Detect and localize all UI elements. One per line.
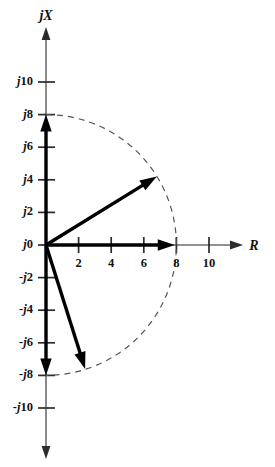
tick-label-10: 10 bbox=[203, 256, 216, 270]
tick-label-4: 4 bbox=[108, 256, 115, 270]
tick-label-8: 8 bbox=[173, 256, 179, 270]
phasor-pure-inductive-arrowhead-icon bbox=[40, 115, 51, 132]
tick-label-6: 6 bbox=[141, 256, 147, 270]
phasor-pure-capacitive-arrowhead-icon bbox=[40, 358, 51, 375]
tick-label-j6: j6 bbox=[21, 139, 33, 153]
phasor-capacitive-arrowhead-icon bbox=[75, 351, 86, 369]
tick-label-j2: j2 bbox=[21, 204, 33, 218]
tick-label-neg-j4: -j4 bbox=[19, 302, 34, 316]
phasor-diagram-figure: j10 j8 j6 j4 j2 j0 -j2 -j4 -j6 -j8 -j10 … bbox=[0, 0, 275, 467]
phasor-diagram-canvas: j10 j8 j6 j4 j2 j0 -j2 -j4 -j6 -j8 -j10 … bbox=[0, 0, 275, 467]
phasor-inductive bbox=[46, 177, 157, 245]
tick-label-neg-j8: -j8 bbox=[19, 367, 33, 381]
tick-label-neg-j2: -j2 bbox=[19, 269, 33, 283]
tick-label-2: 2 bbox=[75, 256, 81, 270]
horizontal-axis-label: R bbox=[248, 238, 258, 253]
tick-label-neg-j6: -j6 bbox=[19, 335, 33, 349]
tick-label-neg-j10: -j10 bbox=[13, 400, 33, 414]
tick-label-j8: j8 bbox=[21, 106, 33, 120]
vertical-axis-label: jX bbox=[37, 8, 53, 23]
vertical-axis-arrow-up-icon bbox=[42, 27, 51, 40]
tick-label-j4: j4 bbox=[21, 172, 33, 186]
horizontal-tick-labels: 2 4 6 8 10 bbox=[75, 256, 215, 270]
phasor-inductive-arrowhead-icon bbox=[139, 177, 156, 191]
tick-label-j0: j0 bbox=[21, 237, 33, 251]
phasor-inductive-shaft bbox=[46, 183, 146, 245]
vertical-axis-arrow-down-icon bbox=[42, 446, 51, 459]
tick-label-j10: j10 bbox=[15, 74, 33, 88]
phasor-pure-resistive-arrowhead-icon bbox=[158, 239, 175, 250]
vertical-tick-labels: j10 j8 j6 j4 j2 j0 -j2 -j4 -j6 -j8 -j10 bbox=[13, 74, 34, 414]
horizontal-axis-arrow-right-icon bbox=[230, 241, 243, 250]
